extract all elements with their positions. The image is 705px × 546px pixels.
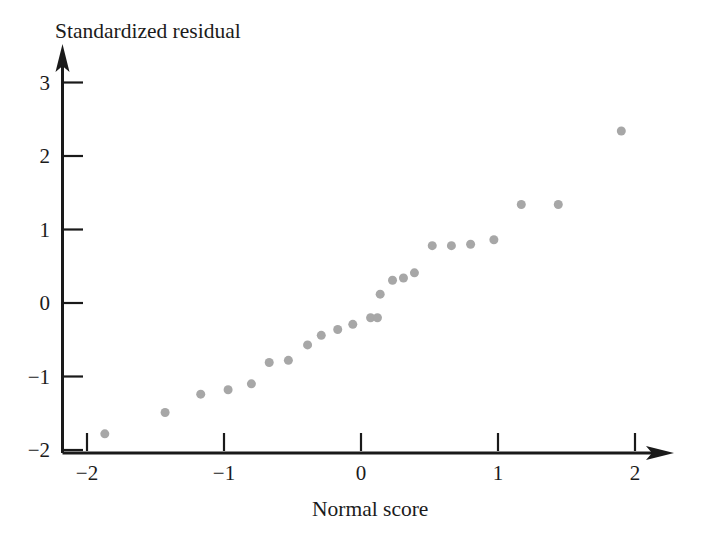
data-point bbox=[247, 379, 256, 388]
data-point bbox=[489, 235, 498, 244]
data-point bbox=[388, 276, 397, 285]
data-point bbox=[265, 358, 274, 367]
y-tick-label-4: 2 bbox=[40, 144, 51, 168]
data-point bbox=[554, 200, 563, 209]
data-point bbox=[303, 340, 312, 349]
y-tick-label-3: 1 bbox=[40, 218, 51, 242]
normal-probability-plot: Standardized residual Normal score −2−10… bbox=[0, 0, 705, 546]
y-tick-label-0: −2 bbox=[28, 438, 50, 462]
data-point bbox=[410, 268, 419, 277]
y-axis-ticks: −2−10123 bbox=[28, 71, 83, 463]
y-axis-title: Standardized residual bbox=[55, 19, 241, 43]
x-tick-label-2: 0 bbox=[356, 461, 367, 485]
x-tick-label-3: 1 bbox=[493, 461, 504, 485]
y-tick-label-1: −1 bbox=[28, 365, 50, 389]
data-point bbox=[196, 390, 205, 399]
data-point bbox=[284, 356, 293, 365]
data-point bbox=[161, 408, 170, 417]
data-point bbox=[617, 127, 626, 136]
data-points-layer bbox=[100, 127, 625, 439]
x-axis-ticks: −2−1012 bbox=[76, 433, 640, 485]
data-point bbox=[376, 290, 385, 299]
chart-page: Standardized residual Normal score −2−10… bbox=[0, 0, 705, 546]
data-point bbox=[373, 313, 382, 322]
x-axis-title: Normal score bbox=[312, 497, 428, 521]
data-point bbox=[447, 241, 456, 250]
data-point bbox=[348, 320, 357, 329]
data-point bbox=[466, 240, 475, 249]
data-point bbox=[317, 331, 326, 340]
x-tick-label-4: 2 bbox=[630, 461, 641, 485]
y-tick-label-5: 3 bbox=[40, 71, 51, 95]
data-point bbox=[428, 241, 437, 250]
data-point bbox=[399, 274, 408, 283]
y-tick-label-2: 0 bbox=[40, 291, 51, 315]
data-point bbox=[517, 200, 526, 209]
x-tick-label-0: −2 bbox=[76, 461, 98, 485]
data-point bbox=[333, 325, 342, 334]
x-tick-label-1: −1 bbox=[213, 461, 235, 485]
data-point bbox=[100, 429, 109, 438]
data-point bbox=[224, 385, 233, 394]
